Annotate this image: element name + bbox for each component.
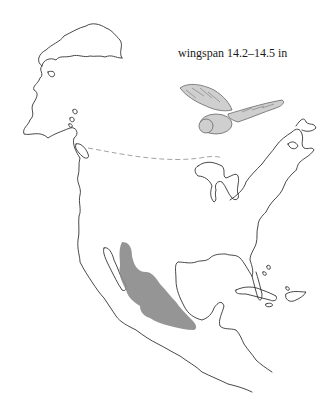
east-coastline	[230, 129, 314, 276]
jamaica	[265, 303, 272, 307]
cuba	[236, 287, 277, 301]
gulf-coastline	[176, 254, 273, 372]
coastal-island-2	[70, 117, 74, 122]
wingspan-caption: wingspan 14.2–14.5 in	[178, 46, 287, 61]
owl-right-wing	[228, 100, 284, 122]
coastal-island-3	[69, 124, 73, 128]
bahamas-island-1	[267, 265, 271, 269]
coastal-island-1	[73, 109, 77, 114]
newfoundland	[288, 142, 298, 149]
hispaniola	[286, 292, 306, 302]
north-coastline	[39, 24, 122, 66]
bahamas-island-2	[263, 272, 267, 276]
vancouver-island	[75, 144, 88, 159]
owl-head	[199, 119, 213, 133]
us-canada-border	[88, 148, 222, 160]
great-lakes	[195, 162, 239, 202]
small-island	[286, 287, 290, 291]
owl-left-wing	[180, 84, 232, 110]
species-range-mexico	[119, 242, 196, 330]
kenai-inlet	[48, 71, 55, 77]
owl-illustration	[172, 80, 292, 140]
